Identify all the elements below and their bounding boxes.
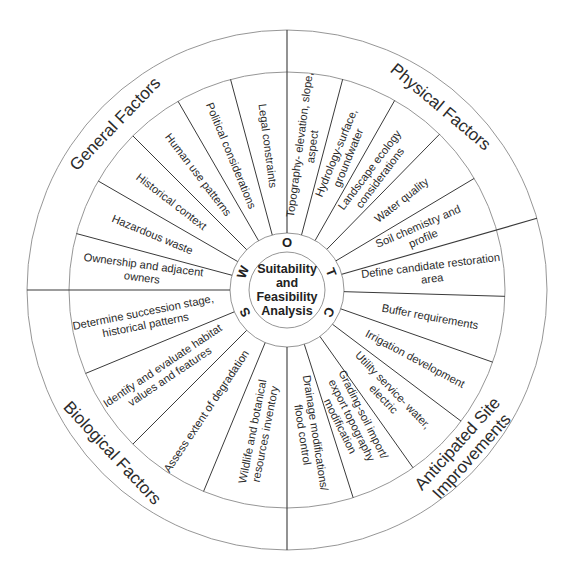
segment-label-line: Buffer requirements [381,302,480,332]
segment-label: Hazardous waste [110,212,194,256]
segment-label: Legal constraints [257,103,280,189]
segment-label-line: Hazardous waste [110,212,194,256]
segment-label-line: Legal constraints [257,103,280,189]
segment-label-line: area [420,271,444,286]
center-title-line: Analysis [261,304,312,318]
segment-label: Define candidate restorationarea [360,251,502,293]
center-title: SuitabilityandFeasibilityAnalysis [256,262,317,318]
suitability-wheel-diagram: Legal constraintsPolitical consideration… [0,0,576,574]
center-title-line: Feasibility [256,290,317,304]
segment-label: Drainage modifications/flood control [288,374,331,494]
swot-letter-t: T [323,266,340,279]
swot-letter-c: C [320,305,338,321]
segment-label: Buffer requirements [381,302,480,332]
swot-letter-w: W [234,263,253,281]
swot-letter-s: S [236,305,253,320]
segment-label: Wildlife and botanicalresources inventor… [236,378,281,487]
category-label: Physical Factors [387,60,495,155]
segment-label: Ownership and adjacentowners [81,251,205,292]
swot-letter-o: O [282,235,292,250]
category-label: General Factors [66,74,164,175]
category-label: Biological Factors [60,397,165,508]
center-title-line: and [276,276,298,290]
center-title-line: Suitability [257,262,317,276]
segment-spoke [344,292,505,297]
